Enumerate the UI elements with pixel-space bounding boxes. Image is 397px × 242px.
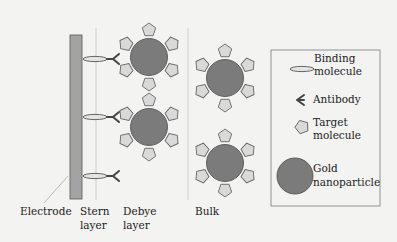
legend-gold-1: Gold <box>313 162 338 174</box>
bound-nanoparticle-2 <box>117 93 182 161</box>
label-bulk: Bulk <box>195 205 220 217</box>
legend-gold-2: nanoparticle <box>313 176 380 188</box>
legend: Binding molecule Antibody Target molecul… <box>271 50 380 206</box>
bound-nanoparticle-1 <box>117 23 182 91</box>
legend-binding-1: Binding <box>314 52 356 64</box>
label-stern-2: layer <box>80 219 108 231</box>
label-electrode: Electrode <box>20 205 72 217</box>
legend-target-1: Target <box>313 116 348 128</box>
label-debye-1: Debye <box>123 205 157 217</box>
binding-antibody-1 <box>83 54 119 64</box>
binding-antibody-2 <box>83 112 119 122</box>
electrode-interface-diagram: Electrode Stern layer Debye layer Bulk B… <box>0 0 397 242</box>
binding-molecule-icon <box>290 66 314 71</box>
bulk-nanoparticle-2 <box>193 129 258 197</box>
target-molecule-icon <box>293 118 310 135</box>
legend-binding-2: molecule <box>314 65 362 77</box>
electrode <box>70 35 82 199</box>
binding-antibody-3 <box>83 171 119 181</box>
gold-nanoparticle-icon <box>277 158 313 194</box>
label-stern-1: Stern <box>80 205 110 217</box>
legend-antibody: Antibody <box>312 93 361 105</box>
label-debye-2: layer <box>123 219 151 231</box>
electrode-pointer <box>44 176 68 203</box>
bulk-nanoparticle-1 <box>193 44 258 112</box>
antibody-icon <box>297 95 304 105</box>
legend-target-2: molecule <box>313 129 361 141</box>
